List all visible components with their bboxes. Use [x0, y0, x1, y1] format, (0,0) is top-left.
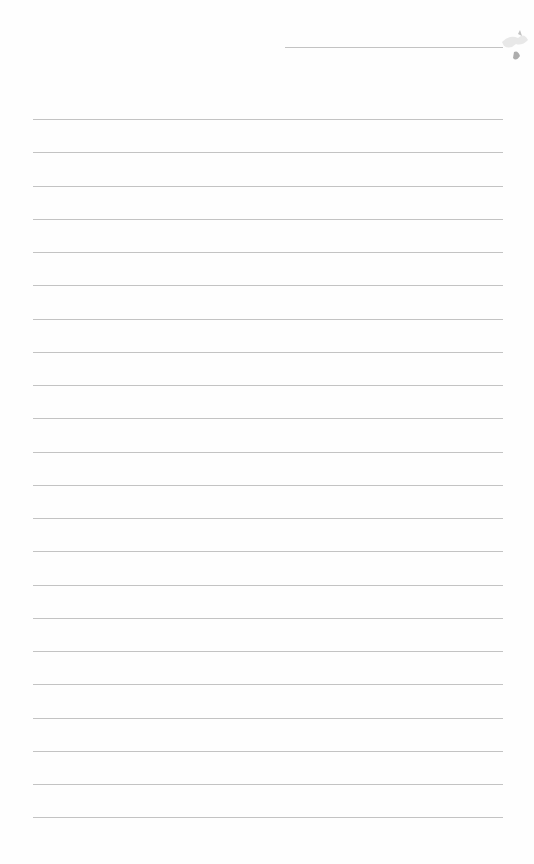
ruled-line [33, 651, 503, 652]
ruled-line [33, 119, 503, 120]
ruled-line [33, 585, 503, 586]
ruled-line [33, 252, 503, 253]
ruled-line [33, 684, 503, 685]
ruled-line [33, 817, 503, 818]
ruled-line [33, 784, 503, 785]
ruled-line [33, 718, 503, 719]
ruled-line [33, 219, 503, 220]
ruled-line [33, 452, 503, 453]
ruled-line [33, 485, 503, 486]
lined-paper-page [0, 0, 534, 864]
paper-smudge-mark [500, 28, 530, 68]
ruled-line [33, 418, 503, 419]
ruled-line [33, 551, 503, 552]
ruled-line [33, 518, 503, 519]
ruled-line [33, 385, 503, 386]
ruled-line [33, 186, 503, 187]
header-rule [285, 47, 503, 48]
ruled-line [33, 352, 503, 353]
ruled-line [33, 285, 503, 286]
ruled-line [33, 152, 503, 153]
ruled-line [33, 618, 503, 619]
ruled-line [33, 319, 503, 320]
ruled-line [33, 751, 503, 752]
